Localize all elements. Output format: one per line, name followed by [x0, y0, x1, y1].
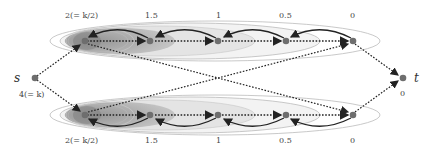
bottom-label-3: 0.5 — [279, 136, 292, 145]
top-label-4: 0 — [350, 11, 355, 20]
sink-value: 0 — [400, 89, 405, 98]
sink-node — [400, 75, 407, 82]
source-label: s — [14, 71, 20, 85]
top-label-2: 1 — [216, 11, 221, 20]
flow-network-diagram: s 4(= k) t 0 2(= k/2) 1.5 1 0.5 0 2(= k/… — [0, 0, 435, 152]
sink-label: t — [414, 71, 419, 85]
bottom-label-2: 1 — [216, 136, 221, 145]
source-node — [32, 75, 39, 82]
bottom-label-4: 0 — [350, 136, 355, 145]
source-value: 4(= k) — [19, 90, 44, 99]
bottom-label-0: 2(= k/2) — [65, 136, 98, 145]
top-label-0: 2(= k/2) — [65, 11, 98, 20]
top-label-3: 0.5 — [279, 11, 292, 20]
top-label-1: 1.5 — [145, 11, 158, 20]
bottom-label-1: 1.5 — [145, 136, 158, 145]
